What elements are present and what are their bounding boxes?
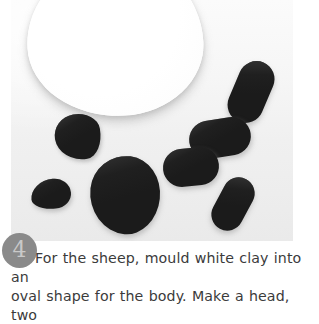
caption-line-1: For the sheep, mould white clay into an [11,250,301,285]
caption-line-2: oval shape for the body. Make a head, tw… [11,287,311,324]
caption-text: For the sheep, mould white clay into an … [11,249,311,324]
step-photo [11,0,293,241]
